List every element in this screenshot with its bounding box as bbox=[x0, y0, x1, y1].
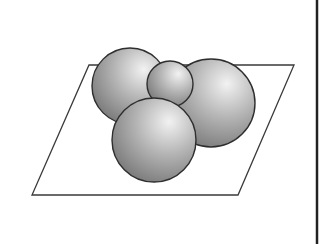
sphere-front bbox=[112, 98, 196, 182]
spheres-on-plane-diagram bbox=[0, 0, 336, 244]
